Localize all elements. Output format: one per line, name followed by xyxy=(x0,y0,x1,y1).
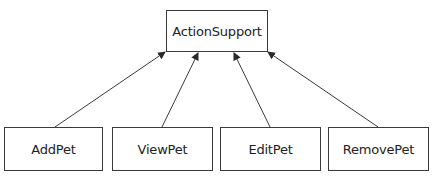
node-label: ViewPet xyxy=(138,142,188,157)
node-action-support: ActionSupport xyxy=(166,10,268,52)
node-label: EditPet xyxy=(248,142,292,157)
edge-viewpet-to-actionsupport xyxy=(162,53,198,127)
inheritance-diagram: ActionSupport AddPet ViewPet EditPet Rem… xyxy=(0,0,433,176)
node-add-pet: AddPet xyxy=(4,127,103,171)
node-remove-pet: RemovePet xyxy=(328,127,429,171)
edge-removepet-to-actionsupport xyxy=(268,52,378,127)
edge-editpet-to-actionsupport xyxy=(234,53,270,127)
node-view-pet: ViewPet xyxy=(112,127,213,171)
node-edit-pet: EditPet xyxy=(220,127,321,171)
node-label: AddPet xyxy=(31,142,75,157)
node-label: ActionSupport xyxy=(172,24,262,39)
edge-addpet-to-actionsupport xyxy=(55,52,165,127)
node-label: RemovePet xyxy=(343,142,414,157)
